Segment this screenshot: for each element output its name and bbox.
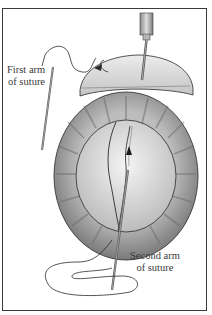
second-arm-label-line2: of suture [130, 262, 180, 274]
flap-icon [80, 55, 193, 96]
first-arm-label-line1: First arm [7, 64, 45, 76]
first-arm-label-line2: of suture [7, 76, 45, 88]
second-arm-label-line1: Second arm [130, 250, 180, 262]
first-arm-label: First arm of suture [7, 64, 45, 88]
suture-illustration [0, 0, 212, 315]
second-arm-label: Second arm of suture [130, 250, 180, 274]
